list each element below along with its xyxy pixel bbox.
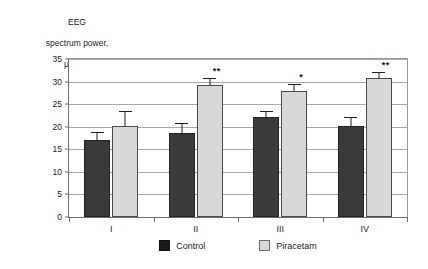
error-bar-piracetam-III — [294, 84, 295, 91]
y-axis-tick-label: 5 — [57, 189, 69, 199]
error-bar-piracetam-I — [125, 111, 126, 126]
bar-control-IV — [338, 126, 364, 217]
gridline — [69, 104, 407, 105]
error-bar-control-III — [266, 111, 267, 117]
error-bar-cap — [288, 84, 301, 85]
x-axis-tick — [69, 217, 70, 222]
legend-label-control: Control — [176, 241, 205, 251]
error-bar-piracetam-II — [209, 78, 210, 85]
chart-legend: Control Piracetam — [68, 240, 408, 251]
significance-marker-II: ** — [213, 66, 221, 76]
x-axis-label-III: III — [276, 224, 284, 234]
error-bar-control-I — [97, 132, 98, 140]
legend-swatch-control — [159, 240, 170, 251]
bar-piracetam-IV — [366, 78, 392, 217]
y-axis-tick-label: 0 — [57, 212, 69, 222]
significance-marker-III: * — [299, 72, 303, 82]
y-axis-tick-label: 25 — [53, 99, 69, 109]
error-bar-cap — [372, 72, 385, 73]
legend-swatch-piracetam — [259, 240, 270, 251]
bar-piracetam-III — [281, 91, 307, 217]
bar-piracetam-II — [197, 85, 223, 217]
y-axis-tick-label: 20 — [53, 122, 69, 132]
error-bar-cap — [119, 111, 132, 112]
x-axis-label-I: I — [110, 224, 113, 234]
error-bar-cap — [344, 117, 357, 118]
error-bar-control-II — [181, 123, 182, 132]
x-axis-tick — [238, 217, 239, 222]
legend-label-piracetam: Piracetam — [276, 241, 317, 251]
gridline — [69, 59, 407, 60]
error-bar-control-IV — [350, 117, 351, 126]
error-bar-cap — [203, 78, 216, 79]
error-bar-cap — [175, 123, 188, 124]
gridline — [69, 82, 407, 83]
error-bar-piracetam-IV — [378, 72, 379, 78]
y-axis-tick-label: 15 — [53, 144, 69, 154]
bar-control-III — [253, 117, 279, 217]
plot-area: 05101520253035I**II*III**IV — [68, 58, 408, 218]
legend-item-piracetam: Piracetam — [259, 240, 317, 251]
legend-item-control: Control — [159, 240, 205, 251]
y-axis-tick-label: 10 — [53, 167, 69, 177]
y-axis-tick-label: 35 — [53, 54, 69, 64]
error-bar-cap — [91, 132, 104, 133]
y-axis-title-line-2: spectrum power, — [22, 38, 132, 49]
x-axis-label-IV: IV — [360, 224, 369, 234]
x-axis-tick — [407, 217, 408, 222]
bar-control-I — [84, 140, 110, 217]
significance-marker-IV: ** — [382, 60, 390, 70]
y-axis-tick-label: 30 — [53, 77, 69, 87]
x-axis-label-II: II — [193, 224, 198, 234]
y-axis-title-line-1: EEG — [22, 17, 132, 28]
x-axis-tick — [154, 217, 155, 222]
bar-control-II — [169, 133, 195, 217]
bar-piracetam-I — [112, 126, 138, 217]
error-bar-cap — [260, 111, 273, 112]
x-axis-tick — [323, 217, 324, 222]
chart-figure: EEG spectrum power, μV²/Hz 0510152025303… — [0, 0, 428, 269]
